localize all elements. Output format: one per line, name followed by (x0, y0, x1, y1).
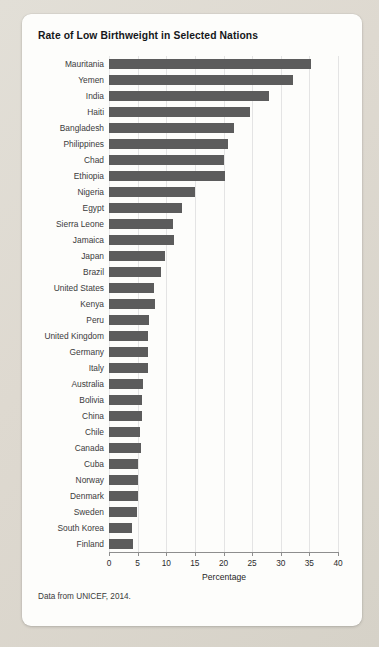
x-tick-label-10: 10 (162, 558, 171, 568)
bar (109, 459, 138, 468)
plot-area: Percentage 0510152025303540MauritaniaYem… (22, 56, 362, 576)
bar (109, 539, 133, 548)
category-label: Egypt (83, 204, 104, 212)
category-label: Yemen (78, 76, 104, 84)
x-tick-label-20: 20 (219, 558, 228, 568)
bar (109, 203, 182, 212)
category-label: Italy (89, 364, 104, 372)
category-label: Kenya (80, 300, 104, 308)
gridline-35 (309, 56, 310, 552)
category-label: Haiti (87, 108, 104, 116)
gridline-30 (281, 56, 282, 552)
bar (109, 155, 224, 164)
category-label: Finland (77, 540, 104, 548)
category-label: Brazil (83, 268, 104, 276)
bar (109, 107, 250, 116)
category-label: Philippines (63, 140, 104, 148)
x-tick-label-40: 40 (333, 558, 342, 568)
bar (109, 187, 195, 196)
category-label: Bangladesh (60, 124, 104, 132)
x-tick-0 (109, 552, 110, 556)
bar (109, 363, 148, 372)
bar (109, 267, 161, 276)
category-label: China (82, 412, 104, 420)
category-label: Sierra Leone (56, 220, 104, 228)
chart-title: Rate of Low Birthweight in Selected Nati… (38, 30, 258, 41)
x-tick-25 (252, 552, 253, 556)
bar (109, 523, 132, 532)
bar (109, 379, 143, 388)
category-label: Sweden (74, 508, 104, 516)
bar (109, 395, 142, 404)
category-label: Norway (76, 476, 104, 484)
category-label: Australia (71, 380, 104, 388)
category-label: Germany (70, 348, 104, 356)
bar (109, 59, 311, 68)
x-tick-label-35: 35 (305, 558, 314, 568)
bar (109, 299, 155, 308)
bar (109, 235, 174, 244)
category-label: Chile (85, 428, 104, 436)
gridline-25 (252, 56, 253, 552)
bar (109, 219, 173, 228)
bar (109, 171, 225, 180)
gridline-40 (338, 56, 339, 552)
x-tick-20 (224, 552, 225, 556)
bar (109, 411, 142, 420)
x-tick-10 (166, 552, 167, 556)
bar (109, 315, 149, 324)
bar (109, 75, 293, 84)
category-label: Bolivia (79, 396, 104, 404)
x-tick-label-30: 30 (276, 558, 285, 568)
bar (109, 251, 165, 260)
page-background: Rate of Low Birthweight in Selected Nati… (0, 0, 379, 647)
bar (109, 443, 141, 452)
category-label: Nigeria (77, 188, 104, 196)
x-tick-label-5: 5 (135, 558, 140, 568)
bar (109, 139, 228, 148)
x-axis-label: Percentage (109, 572, 339, 582)
x-tick-5 (138, 552, 139, 556)
x-tick-label-0: 0 (107, 558, 112, 568)
figure-card: Rate of Low Birthweight in Selected Nati… (22, 14, 362, 626)
x-tick-30 (281, 552, 282, 556)
bar (109, 427, 140, 436)
category-label: Ethiopia (74, 172, 104, 180)
category-label: Canada (75, 444, 104, 452)
source-note: Data from UNICEF, 2014. (38, 592, 131, 601)
category-label: Denmark (70, 492, 104, 500)
x-tick-15 (195, 552, 196, 556)
category-label: South Korea (57, 524, 104, 532)
category-label: Chad (84, 156, 104, 164)
category-label: Jamaica (73, 236, 104, 244)
bar (109, 123, 234, 132)
category-label: Japan (81, 252, 104, 260)
category-label: Cuba (84, 460, 104, 468)
x-tick-label-15: 15 (190, 558, 199, 568)
category-label: Peru (86, 316, 104, 324)
bar (109, 475, 138, 484)
bar (109, 491, 138, 500)
bar (109, 91, 269, 100)
bar (109, 507, 137, 516)
x-tick-40 (338, 552, 339, 556)
bar (109, 347, 148, 356)
category-label: India (86, 92, 104, 100)
bar (109, 283, 154, 292)
x-tick-label-25: 25 (248, 558, 257, 568)
bar (109, 331, 148, 340)
category-label: United Kingdom (44, 332, 104, 340)
x-tick-35 (309, 552, 310, 556)
category-label: Mauritania (65, 60, 104, 68)
category-label: United States (54, 284, 104, 292)
